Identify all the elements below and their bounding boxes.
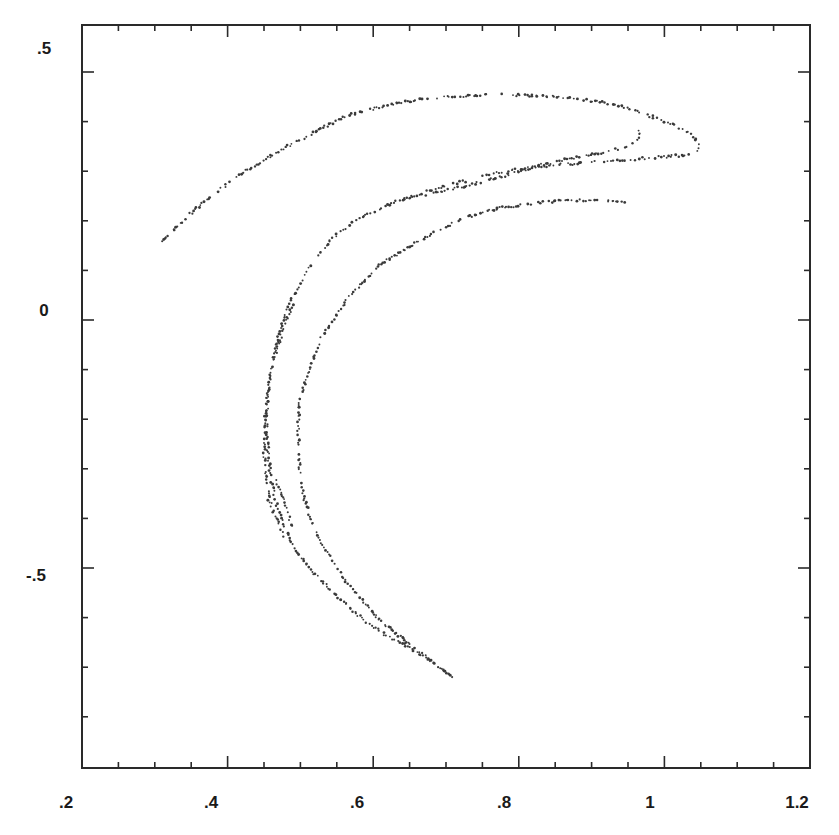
data-point [540, 163, 542, 165]
data-point [282, 523, 285, 526]
data-point [548, 165, 550, 167]
data-point [388, 259, 390, 261]
data-point [217, 190, 220, 193]
data-point [636, 139, 638, 141]
data-point [515, 95, 517, 97]
data-point [376, 106, 378, 108]
data-point [585, 200, 587, 202]
data-point [531, 94, 534, 97]
data-point [355, 592, 357, 594]
data-point [278, 511, 281, 514]
data-point [267, 384, 269, 386]
data-point [273, 358, 275, 360]
data-point [363, 280, 366, 283]
data-point [416, 195, 419, 198]
data-point [277, 151, 280, 154]
data-point [263, 445, 266, 448]
data-point [694, 139, 697, 142]
data-point [298, 402, 300, 404]
data-point [300, 472, 302, 474]
data-point [289, 515, 292, 518]
data-point [305, 564, 307, 566]
data-point [451, 222, 453, 224]
data-point [413, 195, 415, 197]
data-point [302, 279, 304, 281]
data-point [355, 612, 357, 614]
data-point [358, 596, 361, 599]
data-point [268, 492, 270, 494]
data-point [268, 490, 270, 492]
data-point [607, 201, 609, 203]
data-point [456, 185, 459, 188]
data-point [292, 303, 295, 306]
x-tick-label: 1 [645, 793, 654, 812]
data-point [515, 205, 517, 207]
data-point [379, 209, 381, 211]
data-point [351, 293, 353, 295]
data-point [425, 657, 427, 659]
data-point [678, 127, 680, 129]
data-point [623, 107, 625, 109]
data-point [317, 347, 320, 350]
data-point [361, 598, 364, 601]
data-point [301, 387, 304, 390]
data-point [320, 542, 322, 544]
data-point [403, 639, 406, 642]
data-point [406, 246, 409, 249]
data-point [350, 221, 353, 224]
data-point [617, 105, 620, 108]
data-point [564, 199, 566, 201]
data-point [558, 160, 561, 163]
data-point [496, 171, 498, 173]
data-point [282, 535, 284, 537]
data-point [326, 586, 328, 588]
data-point [267, 408, 269, 410]
data-point [338, 310, 340, 312]
data-point [275, 152, 277, 154]
data-point [305, 379, 307, 381]
data-point [492, 178, 495, 181]
data-point [369, 623, 371, 625]
data-point [553, 96, 555, 98]
data-point [666, 157, 668, 159]
data-point [457, 220, 459, 222]
data-point [281, 325, 284, 328]
data-point [510, 206, 512, 208]
data-point [558, 163, 560, 165]
data-point [682, 128, 684, 130]
data-point [637, 110, 639, 112]
data-point [591, 161, 593, 163]
data-point [315, 350, 318, 353]
data-point [474, 183, 477, 186]
data-point [433, 192, 435, 194]
data-point [271, 502, 273, 504]
data-point [383, 634, 385, 636]
data-point [323, 546, 325, 548]
data-point [298, 468, 300, 470]
data-point [296, 434, 299, 437]
data-point [275, 504, 277, 506]
data-point [302, 489, 305, 492]
data-point [273, 490, 275, 492]
data-point [575, 155, 578, 158]
data-point [527, 168, 530, 171]
data-point [368, 607, 370, 609]
data-point [606, 103, 608, 105]
data-point [524, 93, 527, 96]
data-point [458, 180, 461, 183]
data-point [409, 646, 411, 648]
data-point [371, 625, 373, 627]
data-point [166, 235, 168, 237]
data-point [277, 520, 280, 523]
data-point [297, 443, 299, 445]
data-point [324, 329, 327, 332]
data-point [279, 488, 281, 490]
data-point [343, 601, 345, 603]
data-point [607, 160, 609, 162]
data-point [282, 531, 284, 533]
data-point [277, 508, 279, 510]
data-point [340, 571, 343, 574]
data-point [278, 343, 280, 345]
data-point [309, 264, 312, 267]
data-point [263, 426, 266, 429]
